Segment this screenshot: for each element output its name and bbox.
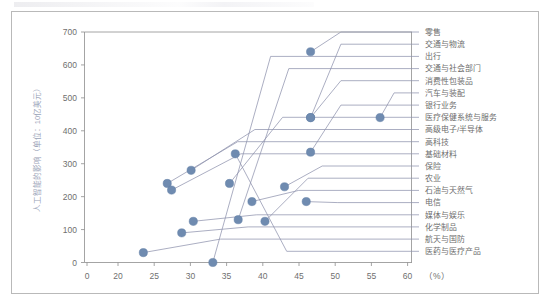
data-point[interactable]	[178, 229, 186, 237]
data-point[interactable]	[139, 249, 147, 257]
point-label: 出行	[425, 51, 441, 61]
leader-line	[252, 190, 419, 201]
y-tick-label: 600	[63, 60, 77, 70]
data-point[interactable]	[376, 114, 384, 122]
scatter-chart: 0100200300400500600700 02025303540455055…	[0, 0, 551, 305]
data-point[interactable]	[306, 114, 314, 122]
data-point[interactable]	[234, 216, 242, 224]
point-label: 交通与社会部门	[425, 63, 481, 73]
x-tick-label: 45	[294, 271, 304, 281]
data-point[interactable]	[167, 186, 175, 194]
y-tick-label: 0	[72, 258, 77, 268]
point-label: 高级电子/半导体	[425, 124, 483, 134]
x-tick-label: 50	[330, 271, 340, 281]
y-tick-label: 100	[63, 225, 77, 235]
point-label: 银行业务	[425, 100, 457, 110]
point-label: 保险	[425, 161, 441, 171]
data-point[interactable]	[187, 166, 195, 174]
leader-line	[167, 142, 419, 184]
point-label: 交通与物流	[425, 39, 465, 49]
x-tick-label: 40	[258, 271, 268, 281]
point-label: 基础材料	[425, 149, 457, 159]
leader-line	[285, 166, 420, 187]
data-point[interactable]	[306, 48, 314, 56]
leader-line	[311, 81, 419, 118]
y-axis-title: 人工智能的影响（单位：10亿美元）	[32, 84, 42, 212]
x-tick-label: 0	[85, 271, 90, 281]
data-point[interactable]	[306, 148, 314, 156]
point-label: 航天与国防	[425, 234, 465, 244]
leader-line	[311, 105, 419, 152]
data-point[interactable]	[209, 258, 217, 266]
y-tick-label: 500	[63, 93, 77, 103]
y-tick-label: 400	[63, 126, 77, 136]
x-tick-label: 60	[403, 271, 413, 281]
x-axis-ticks: 0202530354045505560	[85, 263, 413, 282]
leader-lines	[143, 32, 419, 263]
leader-line	[306, 202, 419, 203]
leader-line	[311, 32, 419, 52]
point-label: 农业	[425, 173, 441, 183]
point-label: 电信	[425, 197, 441, 207]
point-label: 医疗保健系统与服务	[425, 112, 497, 122]
data-point[interactable]	[225, 179, 233, 187]
point-label: 消费性包装品	[425, 76, 473, 86]
leader-line	[191, 130, 419, 171]
data-point[interactable]	[280, 183, 288, 191]
point-label: 汽车与装配	[425, 88, 465, 98]
point-label: 石油与天然气	[425, 185, 473, 195]
point-label: 零售	[425, 27, 441, 37]
data-point[interactable]	[261, 217, 269, 225]
data-point[interactable]	[231, 150, 239, 158]
x-tick-label: 55	[367, 271, 377, 281]
chart-page: 0100200300400500600700 02025303540455055…	[0, 0, 551, 305]
y-axis-ticks: 0100200300400500600700	[63, 27, 85, 268]
leader-line	[193, 215, 419, 222]
data-point[interactable]	[189, 217, 197, 225]
leader-line	[213, 56, 419, 262]
data-point[interactable]	[302, 197, 310, 205]
point-label: 媒体与娱乐	[425, 210, 465, 220]
x-tick-label: 30	[186, 271, 196, 281]
leader-line	[238, 69, 419, 220]
leader-line	[182, 227, 419, 233]
y-tick-label: 200	[63, 192, 77, 202]
point-label: 高科技	[425, 137, 449, 147]
point-labels: 零售交通与物流出行交通与社会部门消费性包装品汽车与装配银行业务医疗保健系统与服务…	[425, 27, 497, 256]
x-axis-unit-label: （%）	[424, 271, 450, 281]
data-point[interactable]	[248, 197, 256, 205]
y-tick-label: 700	[63, 27, 77, 37]
point-label: 化学制品	[425, 222, 457, 232]
x-tick-label: 25	[149, 271, 159, 281]
point-label: 医药与医疗产品	[425, 246, 481, 256]
leader-line	[230, 117, 420, 183]
x-tick-label: 35	[222, 271, 232, 281]
y-tick-label: 300	[63, 159, 77, 169]
x-tick-label: 20	[113, 271, 123, 281]
